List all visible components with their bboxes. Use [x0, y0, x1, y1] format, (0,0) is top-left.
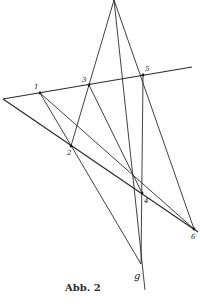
point-label-2: 2: [66, 149, 72, 157]
geometric-figure: 123456 g: [0, 0, 200, 308]
point-label-1: 1: [34, 83, 38, 91]
point-1: [39, 92, 42, 95]
line-through-1-3-5: [3, 67, 192, 99]
point-label-4: 4: [143, 197, 148, 205]
point-5: [142, 74, 145, 77]
point-2: [70, 145, 73, 148]
line-g-label: g: [134, 270, 140, 281]
line-5-4-bottom: [141, 75, 143, 264]
point-label-6: 6: [191, 233, 196, 241]
point-label-5: 5: [145, 65, 150, 73]
point-4: [141, 192, 144, 195]
lines-layer: [3, 0, 198, 290]
point-6: [193, 228, 196, 231]
line-1-6: [40, 93, 194, 229]
line-3-4: [89, 85, 142, 193]
figure-caption: Abb. 2: [65, 282, 101, 293]
line-1-2-bottom: [40, 93, 141, 264]
point-3: [88, 84, 91, 87]
point-label-3: 3: [82, 76, 87, 84]
line-through-2-6: [3, 99, 198, 232]
line-apex-3-2: [71, 0, 114, 146]
